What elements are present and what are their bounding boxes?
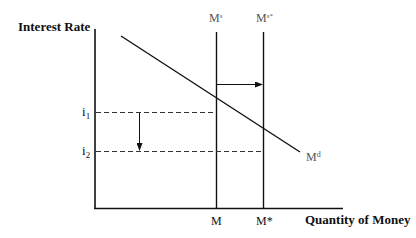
money-demand-label: Md xyxy=(306,150,321,164)
i1-label: i1 xyxy=(82,104,90,121)
money-demand-curve xyxy=(121,36,300,152)
x-axis-label: Quantity of Money xyxy=(305,212,411,227)
money-supply-label: Ms xyxy=(209,11,223,25)
m-star-label: M* xyxy=(256,214,273,228)
y-axis-label: Interest Rate xyxy=(18,19,91,34)
i2-label: i2 xyxy=(82,143,90,160)
m-label: M xyxy=(211,214,222,228)
money-supply-new-label: Ms* xyxy=(256,11,273,25)
money-market-diagram: Interest Rate Quantity of Money Ms Ms* M… xyxy=(0,0,416,238)
